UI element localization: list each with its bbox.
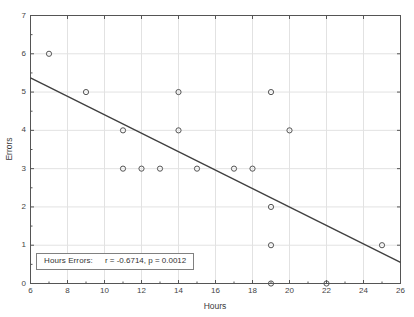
legend-series-label: Hours Errors: — [44, 256, 93, 265]
x-tick-label: 20 — [285, 287, 294, 295]
x-tick-label: 6 — [28, 287, 32, 295]
x-tick-label: 12 — [137, 287, 146, 295]
x-tick-label: 24 — [359, 287, 368, 295]
scatter-chart: 68101214161820222426 01234567 Hours Erro… — [0, 0, 414, 317]
y-tick-label: 2 — [10, 203, 26, 211]
x-tick-label: 8 — [65, 287, 69, 295]
y-axis-title: Errors — [5, 129, 14, 169]
y-tick-label: 7 — [10, 12, 26, 20]
gridlines — [31, 16, 401, 284]
x-tick-label: 18 — [248, 287, 257, 295]
x-tick-label: 14 — [174, 287, 183, 295]
x-tick-label: 26 — [396, 287, 405, 295]
y-tick-label: 6 — [10, 50, 26, 58]
y-tick-label: 1 — [10, 241, 26, 249]
x-tick-label: 16 — [211, 287, 220, 295]
y-tick-label: 0 — [10, 280, 26, 288]
x-tick-label: 10 — [100, 287, 109, 295]
correlation-annotation-box: Hours Errors:r = -0.6714, p = 0.0012 — [36, 253, 194, 270]
y-tick-label: 5 — [10, 88, 26, 96]
x-axis-title: Hours — [204, 302, 227, 311]
legend-stats-label: r = -0.6714, p = 0.0012 — [105, 256, 186, 265]
x-tick-label: 22 — [322, 287, 331, 295]
